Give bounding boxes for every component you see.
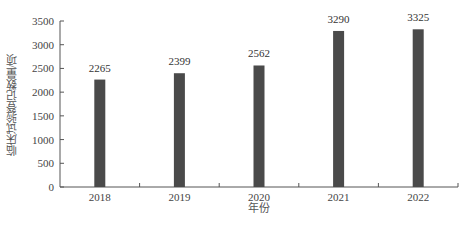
data-label: 2265 bbox=[89, 62, 112, 74]
bars: 22652399256232903325 bbox=[89, 11, 430, 187]
bar bbox=[413, 29, 424, 187]
data-label: 3290 bbox=[328, 13, 351, 25]
y-tick-label: 1000 bbox=[32, 134, 55, 146]
y-tick-label: 3500 bbox=[32, 15, 55, 27]
bar bbox=[94, 80, 105, 187]
y-tick-label: 500 bbox=[38, 157, 55, 169]
y-tick-label: 3000 bbox=[32, 39, 55, 51]
x-axis-title: 年份 bbox=[248, 199, 270, 215]
bar bbox=[174, 73, 185, 187]
y-tick-label: 2500 bbox=[32, 62, 55, 74]
x-tick-label: 2019 bbox=[168, 191, 191, 203]
data-label: 2399 bbox=[168, 55, 191, 67]
x-tick-label: 2018 bbox=[89, 191, 112, 203]
y-tick-label: 1500 bbox=[32, 110, 55, 122]
data-label: 3325 bbox=[407, 11, 430, 23]
y-axis: 0500100015002000250030003500 bbox=[32, 15, 64, 193]
bar bbox=[254, 65, 265, 187]
bar-chart: 0500100015002000250030003500 20182019202… bbox=[0, 0, 471, 226]
bar bbox=[333, 31, 344, 187]
x-tick-label: 2022 bbox=[407, 191, 429, 203]
y-axis-title: 临床试验登记数量/项 bbox=[4, 40, 20, 170]
chart-canvas: 0500100015002000250030003500 20182019202… bbox=[0, 0, 471, 226]
y-tick-label: 2000 bbox=[32, 86, 55, 98]
data-label: 2562 bbox=[248, 47, 270, 59]
y-tick-label: 0 bbox=[49, 181, 55, 193]
x-tick-label: 2021 bbox=[328, 191, 350, 203]
